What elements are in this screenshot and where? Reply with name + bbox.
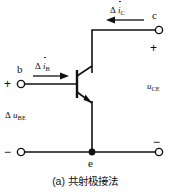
ib-hat-dot-icon: [44, 57, 46, 59]
terminal-base[interactable]: [17, 80, 24, 87]
ic-subscript: C: [121, 9, 125, 16]
collector-wire: [92, 30, 155, 73]
label-base-current: Δ iB: [35, 62, 50, 71]
delta-symbol-ic: Δ: [110, 5, 116, 15]
terminal-bottom-right[interactable]: [155, 148, 162, 155]
collector-current-arrowhead-icon: [106, 17, 115, 24]
polarity-base-positive: +: [4, 78, 11, 90]
ube-subscript: BE: [18, 114, 26, 121]
delta-symbol-ib: Δ: [35, 61, 41, 71]
terminal-label-emitter: e: [88, 158, 93, 169]
uce-subscript: CE: [152, 85, 160, 92]
polarity-collector-positive: +: [150, 42, 157, 54]
ube-symbol: u: [13, 110, 18, 120]
terminal-label-collector: c: [152, 10, 157, 21]
emitter-arrowhead-icon: [84, 95, 93, 104]
terminal-collector[interactable]: [155, 26, 162, 33]
emitter-junction-dot: [89, 149, 96, 156]
circuit-diagram: [0, 0, 170, 194]
terminal-bottom-left[interactable]: [17, 148, 24, 155]
polarity-bottom-left-negative: −: [4, 146, 11, 158]
delta-symbol-ube: Δ: [5, 110, 11, 120]
polarity-bottom-right-negative: −: [153, 136, 160, 148]
terminal-label-base: b: [17, 64, 23, 75]
figure-caption: (a) 共射极接法: [0, 173, 170, 188]
base-current-arrowhead-icon: [60, 73, 69, 80]
uce-symbol: u: [147, 81, 152, 91]
label-output-voltage: uCE: [147, 82, 160, 91]
label-input-voltage: Δ uBE: [5, 111, 26, 120]
ic-hat-dot-icon: [119, 1, 121, 3]
ib-subscript: B: [46, 65, 50, 72]
transistor-collector-lead: [77, 66, 92, 76]
circuit-figure: b c e + + − − Δ iC Δ iB Δ uBE uCE (a) 共射…: [0, 0, 170, 194]
label-collector-current: Δ iC: [110, 6, 125, 15]
